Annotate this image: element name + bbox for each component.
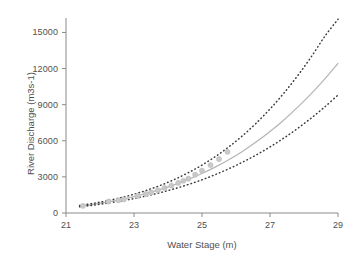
data-point-marker [216, 156, 221, 161]
data-point-marker [181, 178, 186, 183]
x-tick-label: 29 [333, 220, 343, 230]
plot-canvas [0, 0, 353, 260]
y-axis-ticks [62, 32, 66, 213]
x-tick-label: 21 [61, 220, 71, 230]
data-point-marker [143, 191, 148, 196]
axis-lines [66, 18, 338, 213]
data-point-marker [148, 190, 153, 195]
x-axis-ticks [66, 213, 338, 217]
series-rating-curve-fit [80, 63, 338, 206]
x-tick-label: 25 [197, 220, 207, 230]
y-axis-title: River Discharge (m3s-1) [25, 34, 36, 214]
x-axis-title: Water Stage (m) [66, 239, 338, 250]
data-point-marker [176, 180, 181, 185]
data-point-marker [116, 198, 121, 203]
x-tick-label: 27 [265, 220, 275, 230]
data-marker-layer [80, 149, 230, 208]
data-point-marker [225, 149, 230, 154]
data-point-marker [199, 168, 204, 173]
data-series-layer [80, 19, 338, 207]
data-point-marker [121, 197, 126, 202]
data-point-marker [186, 176, 191, 181]
data-point-marker [155, 188, 160, 193]
data-point-marker [193, 172, 198, 177]
data-point-marker [106, 199, 111, 204]
chart-figure: 03000600090001200015000 2123252729 River… [0, 0, 353, 260]
data-point-marker [208, 162, 213, 167]
x-tick-label: 23 [129, 220, 139, 230]
series-lower-confidence-bound [80, 95, 338, 207]
data-point-marker [80, 203, 85, 208]
data-point-marker [162, 185, 167, 190]
data-point-marker [169, 183, 174, 188]
data-point-marker [135, 193, 140, 198]
